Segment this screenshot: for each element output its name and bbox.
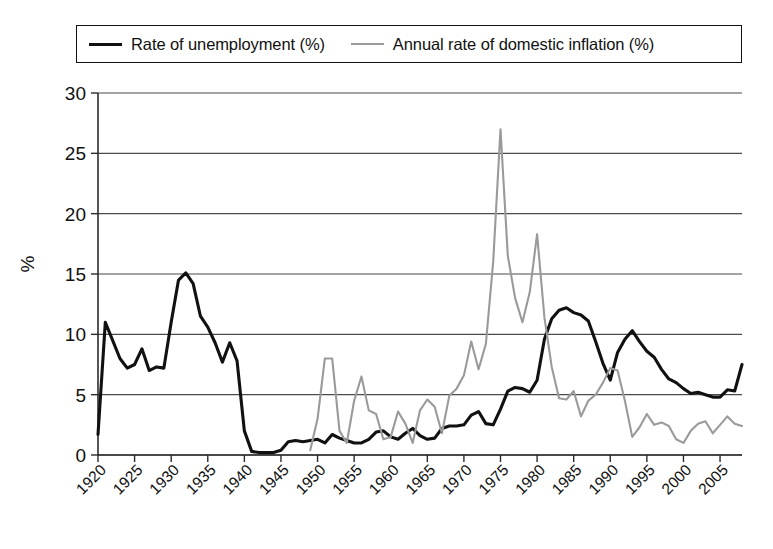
x-tick-label-1935: 1935 bbox=[182, 461, 218, 497]
y-tick-label-30: 30 bbox=[65, 83, 86, 104]
x-tick-label-1950: 1950 bbox=[292, 461, 329, 498]
x-tick-label-1920: 1920 bbox=[73, 461, 110, 498]
y-axis-title-text: % bbox=[17, 255, 38, 272]
x-tick-label-1970: 1970 bbox=[439, 461, 476, 498]
x-tick-label-1955: 1955 bbox=[329, 461, 365, 497]
x-tick-label-1960: 1960 bbox=[365, 461, 402, 498]
x-axis-ticks: 1920192519301935194019451950195519601965… bbox=[73, 455, 731, 498]
y-tick-label-0: 0 bbox=[75, 445, 86, 466]
y-axis-ticks: 051015202530 bbox=[65, 83, 98, 466]
grid-layer bbox=[98, 93, 742, 455]
x-tick-label-2000: 2000 bbox=[658, 461, 695, 498]
x-tick-label-1985: 1985 bbox=[548, 461, 584, 497]
x-tick-label-1930: 1930 bbox=[146, 461, 183, 498]
x-tick-label-2005: 2005 bbox=[695, 461, 731, 497]
y-tick-label-10: 10 bbox=[65, 324, 86, 345]
figure-container: Rate of unemployment (%) Annual rate of … bbox=[0, 0, 773, 549]
y-tick-label-15: 15 bbox=[65, 264, 86, 285]
series-line-unemployment bbox=[98, 273, 742, 453]
x-tick-label-1990: 1990 bbox=[585, 461, 622, 498]
x-tick-label-1940: 1940 bbox=[219, 461, 256, 498]
y-tick-label-5: 5 bbox=[75, 385, 86, 406]
x-tick-label-1980: 1980 bbox=[512, 461, 549, 498]
x-tick-label-1945: 1945 bbox=[256, 461, 292, 497]
y-tick-label-25: 25 bbox=[65, 143, 86, 164]
series-layer bbox=[98, 129, 742, 452]
x-tick-label-1965: 1965 bbox=[402, 461, 438, 497]
y-axis-title: % bbox=[17, 255, 38, 272]
x-tick-label-1925: 1925 bbox=[109, 461, 145, 497]
line-chart: 051015202530 192019251930193519401945195… bbox=[0, 0, 773, 549]
y-tick-label-20: 20 bbox=[65, 204, 86, 225]
x-tick-label-1975: 1975 bbox=[475, 461, 511, 497]
x-tick-label-1995: 1995 bbox=[622, 461, 658, 497]
series-line-inflation bbox=[310, 129, 742, 450]
